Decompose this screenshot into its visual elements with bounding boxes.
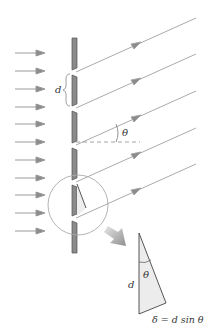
diffraction-grating-diagram: d θ θ d δ = d sin θ bbox=[0, 0, 208, 333]
diffracted-rays bbox=[76, 18, 196, 218]
slit-spacing-label: d bbox=[55, 84, 61, 95]
grating-segment bbox=[72, 111, 77, 143]
incident-arrow bbox=[15, 86, 45, 92]
grating-segment bbox=[72, 185, 77, 216]
diffracted-ray bbox=[76, 164, 196, 218]
incident-arrow bbox=[15, 228, 45, 234]
incident-arrow bbox=[15, 68, 45, 74]
diffracted-ray bbox=[76, 91, 196, 145]
grating-segment bbox=[72, 38, 77, 70]
incident-arrow bbox=[15, 139, 45, 145]
incident-arrow bbox=[15, 157, 45, 163]
incident-arrow bbox=[15, 121, 45, 127]
diffracted-ray bbox=[76, 18, 196, 72]
incident-arrow bbox=[15, 192, 45, 198]
incident-arrow bbox=[15, 210, 45, 216]
path-difference-label: δ = d sin θ bbox=[152, 314, 204, 325]
magnify-arrow-icon bbox=[104, 226, 126, 246]
diffracted-ray bbox=[76, 54, 196, 108]
grating-segment bbox=[72, 75, 77, 106]
angle-label: θ bbox=[122, 127, 128, 138]
slit-spacing-brace bbox=[63, 74, 70, 106]
triangle-side-label: d bbox=[128, 279, 134, 290]
incident-arrows bbox=[15, 50, 45, 234]
diffracted-ray bbox=[76, 128, 196, 182]
grating bbox=[72, 38, 77, 253]
grating-segment bbox=[72, 221, 77, 253]
triangle-angle-label: θ bbox=[143, 269, 149, 280]
incident-arrow bbox=[15, 175, 45, 181]
incident-arrow bbox=[15, 104, 45, 110]
incident-arrow bbox=[15, 50, 45, 56]
